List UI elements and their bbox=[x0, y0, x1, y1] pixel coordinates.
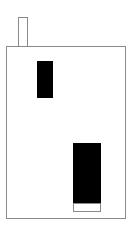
window bbox=[37, 61, 53, 98]
house-body bbox=[6, 46, 126, 219]
door-step bbox=[73, 203, 101, 212]
chimney bbox=[18, 17, 28, 47]
door bbox=[73, 143, 101, 204]
